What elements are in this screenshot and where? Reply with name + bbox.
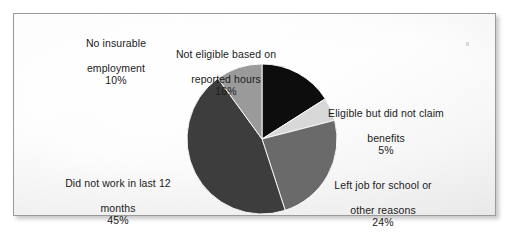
slice-label-eligible-but-did-not-claim-benefits: Eligible but did not claim benefits 5% — [310, 94, 462, 169]
scan-artifact-mark — [466, 42, 469, 46]
slice-label-text: Not eligible based on — [176, 48, 276, 60]
slice-label-text: months — [100, 202, 135, 214]
slice-label-text: employment — [87, 62, 145, 74]
slice-label-left-job-for-school-or-other-reasons: Left job for school or other reasons 24% — [314, 166, 452, 241]
slice-label-did-not-work-in-last-12-months: Did not work in last 12 months 45% — [48, 164, 188, 239]
chart-panel: Not eligible based on reported hours 16%… — [13, 13, 496, 216]
slice-label-no-insurable-employment: No insurable employment 10% — [60, 24, 172, 99]
slice-value-label: 45% — [48, 214, 188, 227]
figure-root: Not eligible based on reported hours 16%… — [0, 0, 525, 243]
slice-label-text: No insurable — [86, 37, 146, 49]
slice-label-text: benefits — [367, 132, 405, 144]
pie-chart: Not eligible based on reported hours 16%… — [14, 14, 495, 215]
slice-value-label: 16% — [162, 85, 290, 98]
slice-label-text: other reasons — [350, 204, 416, 216]
slice-label-not-eligible-based-on-reported-hours: Not eligible based on reported hours 16% — [162, 35, 290, 110]
slice-label-text: Did not work in last 12 — [65, 177, 171, 189]
slice-value-label: 5% — [310, 144, 462, 157]
slice-value-label: 10% — [60, 74, 172, 87]
slice-value-label: 24% — [314, 216, 452, 229]
slice-label-text: Left job for school or — [334, 179, 431, 191]
slice-label-text: reported hours — [191, 73, 261, 85]
slice-label-text: Eligible but did not claim — [328, 107, 444, 119]
